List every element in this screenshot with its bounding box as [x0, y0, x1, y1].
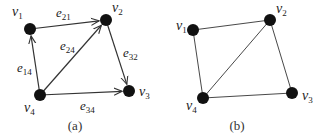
- node-v2: [100, 14, 112, 26]
- node-label-v3: v3: [139, 84, 150, 101]
- edge-v2-v3: [270, 20, 292, 93]
- caption-a: (a): [68, 118, 82, 133]
- edge-v4-v1: [31, 36, 40, 95]
- directed-graph-a: e21e14e24e32e34v1v2v3v4(a): [12, 0, 150, 133]
- node-label-v2: v2: [276, 1, 287, 18]
- edge-label-e21: e21: [56, 5, 71, 22]
- edge-v1-v2: [30, 21, 99, 29]
- node-label-v4: v4: [186, 98, 197, 115]
- node-v1: [187, 24, 199, 36]
- graph-diagram: e21e14e24e32e34v1v2v3v4(a) v1v2v3v4(b): [0, 0, 324, 139]
- edge-label-e24: e24: [60, 38, 75, 55]
- node-v2: [264, 14, 276, 26]
- edge-v1-v4: [193, 30, 203, 98]
- node-label-v1: v1: [176, 18, 187, 35]
- edge-v4-v3: [203, 93, 292, 98]
- node-v4: [197, 92, 209, 104]
- node-label-v1: v1: [12, 4, 23, 21]
- node-v4: [34, 89, 46, 101]
- edge-label-e14: e14: [17, 60, 32, 77]
- edge-label-e34: e34: [80, 98, 95, 115]
- edge-v4-v3: [40, 91, 122, 95]
- node-label-v2: v2: [112, 0, 123, 17]
- node-v1: [24, 23, 36, 35]
- node-label-v3: v3: [302, 88, 313, 105]
- edge-v1-v2: [193, 20, 270, 30]
- node-v3: [286, 87, 298, 99]
- caption-b: (b): [229, 118, 244, 133]
- edge-v4-v2: [40, 25, 101, 95]
- node-v3: [123, 85, 135, 97]
- undirected-graph-b: v1v2v3v4(b): [176, 1, 313, 133]
- edge-v4-v2: [203, 20, 270, 98]
- node-label-v4: v4: [24, 100, 35, 117]
- edge-label-e32: e32: [123, 45, 138, 62]
